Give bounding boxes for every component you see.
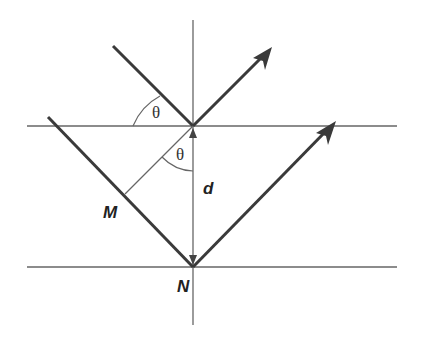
arrowhead-bottom [316, 121, 336, 145]
n-label: N [177, 277, 189, 297]
m-label: M [103, 203, 117, 223]
theta-label-top: θ [152, 103, 160, 123]
d-label: d [203, 179, 213, 199]
theta-label-inner: θ [176, 145, 184, 165]
arrowhead-top [253, 47, 272, 70]
incident-ray-bottom [48, 117, 193, 267]
reflected-ray-top [193, 56, 263, 126]
diagram-canvas [0, 0, 421, 345]
